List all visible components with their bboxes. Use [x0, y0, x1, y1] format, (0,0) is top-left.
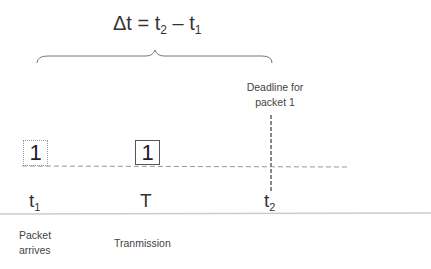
timeline-dashed: [22, 166, 348, 167]
delta-t-formula: Δt = t2 – t1: [113, 12, 201, 37]
time-mark-T: T: [140, 190, 152, 212]
packet-arrived-box: 1: [23, 140, 48, 166]
time-mark-t2: t2: [264, 190, 275, 213]
span-brace: [37, 50, 272, 63]
transmission-label: Tranmission: [114, 236, 171, 251]
time-mark-t1: t1: [29, 190, 40, 213]
deadline-label: Deadline for packet 1: [240, 80, 310, 110]
packet-transmitted-box: 1: [135, 140, 160, 165]
axis-line: [0, 213, 431, 214]
diagram-lines: [0, 0, 431, 269]
packet-arrives-label: Packet arrives: [19, 228, 51, 258]
